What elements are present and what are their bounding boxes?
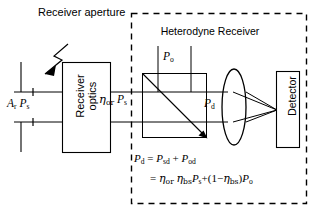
eta-or-symbol: ηor bbox=[99, 92, 114, 106]
receiver-optics-label-line1: Receiver bbox=[74, 74, 86, 117]
equation-2: = ηor ηbsPs+(1−ηbs)Po bbox=[150, 172, 253, 187]
aperture-leader-arrowhead bbox=[45, 65, 56, 76]
receiver-optics-label: Receiver optics bbox=[74, 56, 99, 136]
after-optics-power-label: ηor Ps bbox=[99, 93, 127, 108]
receiver-aperture-label: Receiver aperture bbox=[38, 6, 112, 18]
focusing-lens bbox=[222, 69, 246, 145]
input-power-label: Ar Ps bbox=[7, 97, 29, 112]
detector-label: Detector bbox=[287, 56, 299, 136]
heterodyne-receiver-label: Heterodyne Receiver bbox=[150, 26, 270, 38]
figure-canvas: Receiver aperture Heterodyne Receiver Re… bbox=[0, 0, 323, 217]
aperture-leader-arrow bbox=[45, 44, 68, 74]
receiver-optics-label-line2: optics bbox=[86, 56, 98, 136]
input-power-P: Ps bbox=[19, 97, 29, 109]
after-optics-P: Ps bbox=[117, 93, 127, 105]
equation-1: Pd = Psd + Pod bbox=[134, 152, 196, 167]
local-oscillator-power-label: Po bbox=[163, 50, 174, 65]
detected-power-label: Pd bbox=[204, 97, 215, 112]
beam-splitter-diagonal bbox=[143, 74, 206, 137]
converging-rays bbox=[233, 92, 277, 122]
input-power-A: Ar bbox=[7, 97, 17, 109]
